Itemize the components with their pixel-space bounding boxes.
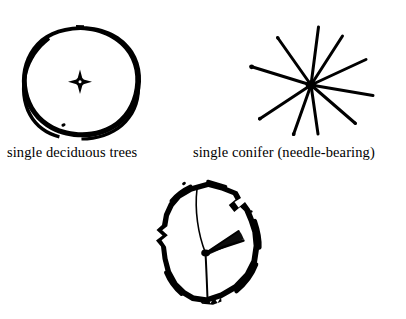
conifer-needle-10: [278, 38, 312, 86]
caption-single-conifer: single conifer (needle-bearing): [193, 144, 375, 161]
stand-speck-right: [249, 210, 252, 212]
conifer-needle-6: [311, 85, 318, 134]
caption-single-deciduous-trees: single deciduous trees: [7, 144, 137, 161]
conifer-needle-9: [251, 67, 311, 86]
single-deciduous-tree-symbol: hand-drawn irregular circle with a small…: [10, 22, 150, 144]
conifer-needle-tips: [249, 36, 356, 136]
deciduous-center-star-icon: [68, 70, 92, 95]
conifer-center-hub: [306, 80, 317, 89]
deciduous-circle-second-pass: [22, 37, 60, 139]
stand-division-south: [206, 253, 208, 299]
deciduous-ink-speck: [61, 123, 66, 127]
conifer-needle-8: [260, 85, 312, 119]
figure-canvas: hand-drawn irregular circle with a small…: [0, 0, 406, 319]
stand-division-north: [196, 189, 205, 253]
single-conifer-symbol: starburst of ten straight needle lines r…: [245, 22, 380, 144]
stand-speck-top: [182, 181, 187, 185]
forest-stand-polygon-symbol: rough hand-drawn polygon blob with heavy…: [142, 176, 272, 319]
deciduous-top-tick: [76, 25, 84, 30]
